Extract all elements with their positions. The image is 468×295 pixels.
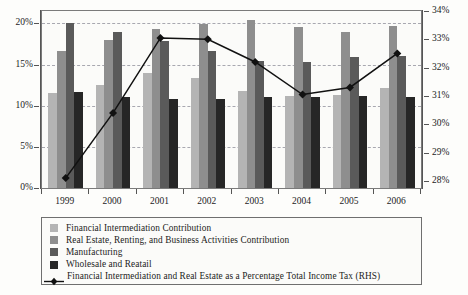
- category-axis-tick-mark: [136, 189, 137, 194]
- right-axis-tick-label: 30%: [432, 120, 449, 130]
- left-axis-tick-mark: [34, 106, 39, 107]
- left-axis-tick-label: 0%: [20, 183, 33, 193]
- legend-item-label: Financial Intermediation and Real Estate…: [67, 271, 380, 282]
- right-axis-spine: [422, 10, 423, 189]
- right-axis-tick-mark: [424, 68, 429, 69]
- category-axis-tick-mark: [278, 189, 279, 194]
- left-axis-tick-label: 20%: [16, 19, 33, 29]
- category-axis-label: 2005: [339, 196, 358, 207]
- category-axis-label: 2004: [292, 196, 311, 207]
- right-axis-tick-mark: [424, 124, 429, 125]
- legend-item-label: Financial Intermediation Contribution: [66, 223, 211, 234]
- right-axis-tick-label: 31%: [432, 91, 449, 101]
- right-axis-tick-label: 32%: [432, 63, 449, 73]
- right-axis-tick-label: 29%: [432, 148, 449, 158]
- legend-item[interactable]: Financial Intermediation Contribution: [50, 222, 415, 234]
- category-axis-tick-mark: [420, 189, 421, 194]
- category-axis: 19992000200120022003200420052006: [41, 189, 422, 211]
- right-axis-tick-mark: [424, 11, 429, 12]
- category-axis-label: 2002: [197, 196, 216, 207]
- legend-item-label: Real Estate, Renting, and Business Activ…: [66, 235, 289, 246]
- right-axis-tick-label: 34%: [432, 6, 449, 16]
- legend-item[interactable]: Manufacturing: [50, 246, 415, 258]
- category-axis-tick-mark: [325, 189, 326, 194]
- left-axis-tick-label: 15%: [16, 60, 33, 70]
- right-axis-tick-mark: [424, 181, 429, 182]
- right-axis-tick-mark: [424, 39, 429, 40]
- left-axis-tick-label: 5%: [20, 142, 33, 152]
- category-axis-label: 2000: [103, 196, 122, 207]
- plot-frame: [41, 10, 422, 189]
- left-axis-tick-label: 10%: [16, 101, 33, 111]
- legend-item-label: Wholesale and Reatail: [66, 259, 152, 270]
- chart-figure: 0%5%10%15%20% 28%29%30%31%32%33%34% 1999…: [0, 0, 468, 295]
- category-axis-tick-mark: [41, 189, 42, 194]
- left-axis-tick-mark: [34, 188, 39, 189]
- dark-gray-swatch-icon: [50, 248, 58, 256]
- light-gray-swatch-icon: [50, 224, 58, 232]
- category-axis-tick-mark: [373, 189, 374, 194]
- line-series-overlay: [42, 11, 421, 188]
- right-axis-tick-mark: [424, 153, 429, 154]
- data-point-marker: [156, 34, 164, 42]
- legend-item[interactable]: Real Estate, Renting, and Business Activ…: [50, 234, 415, 246]
- legend-item[interactable]: Wholesale and Reatail: [50, 259, 415, 271]
- category-axis-tick-mark: [183, 189, 184, 194]
- right-axis-tick-mark: [424, 96, 429, 97]
- category-axis-label: 1999: [55, 196, 74, 207]
- category-axis-tick-mark: [88, 189, 89, 194]
- category-axis-label: 2006: [387, 196, 406, 207]
- left-axis-tick-mark: [34, 23, 39, 24]
- left-axis-tick-mark: [34, 65, 39, 66]
- plot-area: [42, 11, 421, 188]
- right-value-axis: 28%29%30%31%32%33%34%: [422, 10, 468, 189]
- left-value-axis: 0%5%10%15%20%: [0, 10, 41, 189]
- legend-item[interactable]: Financial Intermediation and Real Estate…: [50, 271, 415, 283]
- line-diamond-marker-icon: [43, 272, 65, 281]
- black-swatch-icon: [50, 261, 58, 269]
- category-axis-label: 2001: [150, 196, 169, 207]
- category-axis-tick-mark: [231, 189, 232, 194]
- right-axis-tick-label: 33%: [432, 35, 449, 45]
- data-point-marker: [204, 35, 212, 43]
- right-axis-tick-label: 28%: [432, 176, 449, 186]
- left-axis-tick-mark: [34, 147, 39, 148]
- chart-legend: Financial Intermediation ContributionRea…: [41, 217, 422, 285]
- category-axis-label: 2003: [245, 196, 264, 207]
- legend-item-label: Manufacturing: [66, 247, 123, 258]
- medium-gray-swatch-icon: [50, 236, 58, 244]
- line-path: [66, 38, 398, 178]
